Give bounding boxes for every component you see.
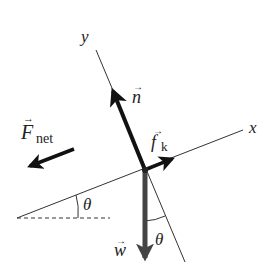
weight-angle-label: θ — [155, 230, 163, 249]
weight-label: w — [114, 240, 126, 260]
incline-angle-arc — [76, 195, 78, 218]
object-point — [142, 167, 148, 173]
net-force-arrow — [30, 149, 74, 166]
free-body-diagram: y x → n → f k → F net → w θ θ — [0, 0, 271, 272]
x-axis-label: x — [248, 118, 257, 137]
incline-angle-label: θ — [83, 195, 91, 214]
friction-subscript: k — [161, 139, 168, 154]
friction-arrow — [145, 159, 172, 170]
net-force-subscript: net — [36, 131, 53, 146]
y-axis-label: y — [79, 27, 89, 46]
weight-angle-arc — [145, 216, 165, 221]
normal-force-label: n — [132, 87, 141, 107]
net-force-label: F — [20, 121, 34, 143]
